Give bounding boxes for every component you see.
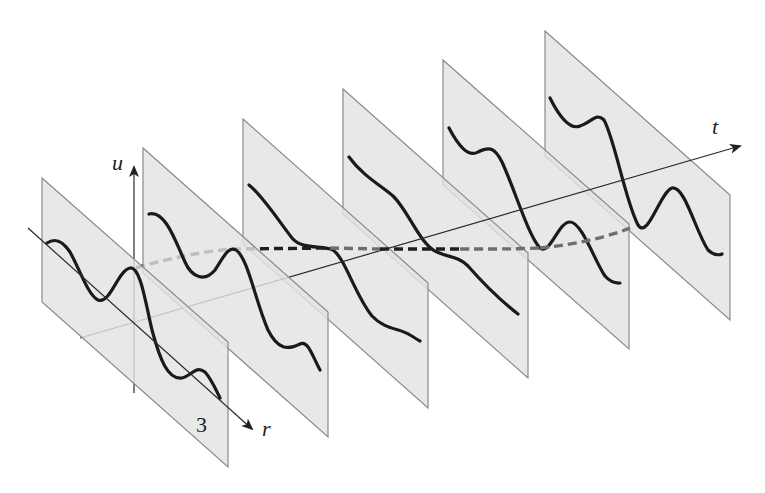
wave-slices-diagram: u t r 3 bbox=[0, 0, 765, 493]
panel-number-label: 3 bbox=[196, 412, 207, 437]
t-axis-label: t bbox=[712, 114, 719, 139]
u-axis-label: u bbox=[112, 150, 123, 175]
r-axis-label: r bbox=[262, 416, 271, 441]
